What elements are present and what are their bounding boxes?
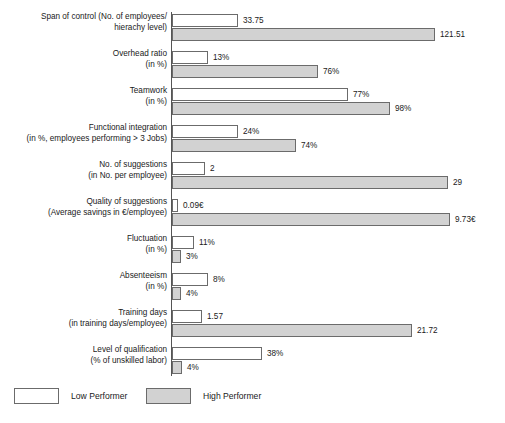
- row-category-label: Absenteeism(in %): [0, 271, 167, 292]
- row-category-label-line2: (in %, employees performing > 3 Jobs): [0, 134, 167, 145]
- row-category-label: Functional integration(in %, employees p…: [0, 123, 167, 144]
- row-category-label-line2: (in training days/employee): [0, 319, 167, 330]
- bar-low-performer: [172, 162, 205, 175]
- row-category-label-line1: Teamwork: [0, 86, 167, 97]
- bar-value-low-performer: 24%: [243, 126, 259, 137]
- legend-item-high-performer: High Performer: [146, 385, 261, 407]
- row-category-label-line2: (% of unskilled labor): [0, 356, 167, 367]
- row-category-label-line2: (in %): [0, 282, 167, 293]
- bar-high-performer: [172, 139, 296, 152]
- bar-value-high-performer: 4%: [186, 288, 198, 299]
- bar-value-high-performer: 29: [453, 177, 462, 188]
- row-category-label-line2: (in %): [0, 97, 167, 108]
- row-category-label: Fluctuation(in %): [0, 234, 167, 255]
- bar-value-low-performer: 2: [210, 163, 215, 174]
- row-category-label: Span of control (No. of employees/hierac…: [0, 12, 167, 33]
- row-category-label: Teamwork(in %): [0, 86, 167, 107]
- bar-value-low-performer: 13%: [213, 52, 229, 63]
- bar-value-high-performer: 3%: [186, 251, 198, 262]
- bar-value-high-performer: 74%: [301, 140, 317, 151]
- chart-row: Training days(in training days/employee)…: [0, 308, 505, 342]
- bar-value-low-performer: 8%: [213, 274, 225, 285]
- bar-high-performer: [172, 250, 181, 263]
- bar-value-high-performer: 98%: [395, 103, 411, 114]
- bar-value-high-performer: 76%: [323, 66, 339, 77]
- legend-swatch-high-performer: [146, 388, 191, 404]
- bar-value-high-performer: 121.51: [440, 29, 465, 40]
- bar-value-low-performer: 77%: [353, 89, 369, 100]
- row-category-label-line1: Training days: [0, 308, 167, 319]
- bar-low-performer: [172, 347, 262, 360]
- bar-low-performer: [172, 88, 348, 101]
- row-category-label-line1: Level of qualification: [0, 345, 167, 356]
- bar-high-performer: [172, 287, 181, 300]
- bar-high-performer: [172, 361, 182, 374]
- row-category-label-line2: (in %): [0, 245, 167, 256]
- bar-low-performer: [172, 236, 194, 249]
- bar-value-low-performer: 0.09€: [183, 200, 204, 211]
- chart-row: Span of control (No. of employees/hierac…: [0, 12, 505, 46]
- row-category-label-line1: Overhead ratio: [0, 49, 167, 60]
- row-category-label-line2: hierachy level): [0, 23, 167, 34]
- chart-row: No. of suggestions(in No. per employee)2…: [0, 160, 505, 194]
- row-category-label-line1: Span of control (No. of employees/: [0, 12, 167, 23]
- grouped-bar-chart: Span of control (No. of employees/hierac…: [0, 0, 505, 423]
- row-category-label: Level of qualification(% of unskilled la…: [0, 345, 167, 366]
- bar-low-performer: [172, 310, 202, 323]
- chart-row: Teamwork(in %)77%98%: [0, 86, 505, 120]
- bar-low-performer: [172, 14, 238, 27]
- bar-low-performer: [172, 273, 208, 286]
- bar-low-performer: [172, 125, 238, 138]
- row-category-label-line2: (in No. per employee): [0, 171, 167, 182]
- bar-high-performer: [172, 28, 435, 41]
- bar-value-low-performer: 38%: [267, 348, 283, 359]
- bar-high-performer: [172, 176, 448, 189]
- chart-row: Level of qualification(% of unskilled la…: [0, 345, 505, 379]
- bar-value-low-performer: 1.57: [207, 311, 223, 322]
- row-category-label-line2: (Average savings in €/employee): [0, 208, 167, 219]
- legend-label-high-performer: High Performer: [203, 391, 261, 401]
- row-category-label-line1: Functional integration: [0, 123, 167, 134]
- bar-value-high-performer: 9.73€: [455, 214, 476, 225]
- row-category-label: Training days(in training days/employee): [0, 308, 167, 329]
- chart-row: Fluctuation(in %)11%3%: [0, 234, 505, 268]
- chart-row: Functional integration(in %, employees p…: [0, 123, 505, 157]
- bar-high-performer: [172, 324, 412, 337]
- chart-row: Absenteeism(in %)8%4%: [0, 271, 505, 305]
- row-category-label: Overhead ratio(in %): [0, 49, 167, 70]
- bar-high-performer: [172, 102, 390, 115]
- legend-label-low-performer: Low Performer: [71, 391, 127, 401]
- row-category-label-line2: (in %): [0, 60, 167, 71]
- row-category-label: No. of suggestions(in No. per employee): [0, 160, 167, 181]
- row-category-label-line1: No. of suggestions: [0, 160, 167, 171]
- bar-value-high-performer: 21.72: [417, 325, 438, 336]
- row-category-label: Quality of suggestions(Average savings i…: [0, 197, 167, 218]
- row-category-label-line1: Fluctuation: [0, 234, 167, 245]
- chart-row: Quality of suggestions(Average savings i…: [0, 197, 505, 231]
- legend-item-low-performer: Low Performer: [14, 385, 127, 407]
- bar-value-low-performer: 11%: [199, 237, 215, 248]
- chart-row: Overhead ratio(in %)13%76%: [0, 49, 505, 83]
- legend-swatch-low-performer: [14, 388, 59, 404]
- bar-value-high-performer: 4%: [187, 362, 199, 373]
- bar-low-performer: [172, 51, 208, 64]
- bar-value-low-performer: 33.75: [243, 15, 264, 26]
- bar-high-performer: [172, 65, 318, 78]
- row-category-label-line1: Absenteeism: [0, 271, 167, 282]
- bar-high-performer: [172, 213, 450, 226]
- bar-low-performer: [172, 199, 178, 212]
- row-category-label-line1: Quality of suggestions: [0, 197, 167, 208]
